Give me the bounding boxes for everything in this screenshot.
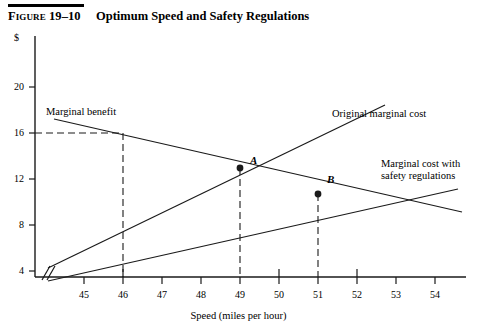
page-title: Optimum Speed and Safety Regulations [96, 9, 309, 24]
chart-plot-area: $ 20 16 12 8 4 45 46 47 48 49 50 51 52 5… [0, 28, 477, 328]
point-label-a: A [250, 154, 257, 166]
y-axis-unit-label: $ [14, 32, 19, 43]
x-tick-label-49: 49 [228, 290, 252, 300]
y-tick-label-16: 16 [8, 128, 24, 138]
y-axis-ticks [29, 87, 35, 271]
x-tick-label-48: 48 [189, 290, 213, 300]
y-tick-label-4: 4 [8, 266, 24, 276]
x-tick-label-53: 53 [384, 290, 408, 300]
x-tick-label-51: 51 [306, 290, 330, 300]
figure-number: Figure 19–10 [8, 9, 81, 24]
curve-label-marginal-benefit: Marginal benefit [46, 106, 116, 118]
data-point-b [315, 191, 322, 198]
x-tick-label-54: 54 [423, 290, 447, 300]
curve-marginal-cost-safety [48, 189, 458, 281]
y-tick-label-12: 12 [8, 174, 24, 184]
x-tick-label-52: 52 [345, 290, 369, 300]
x-tick-label-46: 46 [111, 290, 135, 300]
x-tick-label-45: 45 [72, 290, 96, 300]
x-tick-label-50: 50 [267, 290, 291, 300]
y-tick-label-20: 20 [8, 82, 24, 92]
figure-container: Figure 19–10 Optimum Speed and Safety Re… [0, 0, 477, 328]
data-point-a [237, 165, 244, 172]
curve-label-marginal-cost-safety: Marginal cost with safety regulations [381, 158, 477, 182]
figure-header: Figure 19–10 Optimum Speed and Safety Re… [8, 4, 468, 30]
x-tick-label-47: 47 [150, 290, 174, 300]
x-axis-title: Speed (miles per hour) [0, 310, 477, 321]
y-tick-label-8: 8 [8, 220, 24, 230]
point-label-b: B [327, 173, 334, 185]
title-rule [8, 4, 84, 7]
curve-label-original-marginal-cost: Original marginal cost [332, 108, 426, 120]
